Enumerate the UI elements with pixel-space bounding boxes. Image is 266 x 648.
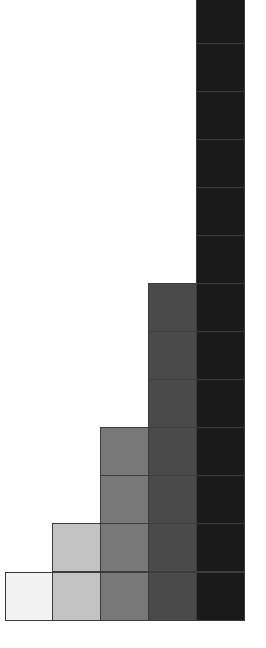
unit-square [148, 572, 197, 621]
bar-column-5 [196, 0, 245, 621]
unit-square [196, 572, 245, 621]
unit-square [52, 523, 101, 572]
bar-column-1 [5, 572, 54, 621]
unit-square [148, 427, 197, 476]
unit-square [196, 379, 245, 428]
unit-square [52, 572, 101, 621]
unit-square [196, 0, 245, 44]
unit-square [196, 187, 245, 236]
unit-square [196, 523, 245, 572]
unit-square [5, 572, 54, 621]
unit-square [148, 331, 197, 380]
unit-square [196, 427, 245, 476]
unit-square [196, 331, 245, 380]
unit-square [196, 283, 245, 332]
bar-column-2 [52, 524, 101, 621]
bar-column-3 [100, 428, 149, 621]
unit-square [100, 427, 149, 476]
unit-square [100, 475, 149, 524]
figure-canvas [0, 0, 266, 648]
unit-square [148, 379, 197, 428]
unit-square [100, 572, 149, 621]
unit-square [196, 43, 245, 92]
unit-square [148, 283, 197, 332]
plot-area [0, 0, 266, 648]
unit-square [196, 91, 245, 140]
unit-square [196, 475, 245, 524]
bar-column-4 [148, 284, 197, 621]
unit-square [100, 523, 149, 572]
unit-square [196, 139, 245, 188]
unit-square [148, 475, 197, 524]
unit-square [196, 235, 245, 284]
unit-square [148, 523, 197, 572]
